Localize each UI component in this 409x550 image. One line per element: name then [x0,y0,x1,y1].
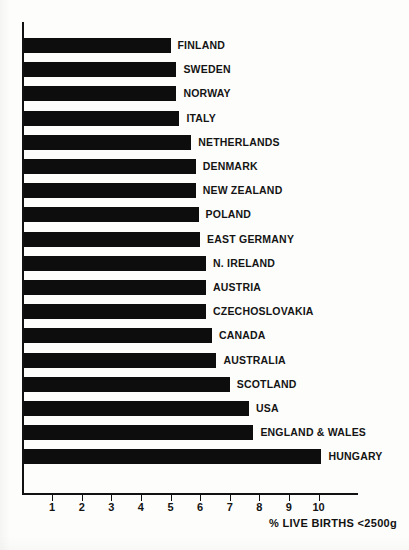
bar-label: CZECHOSLOVAKIA [206,304,314,319]
bar-rect [24,353,216,368]
bar-row: HUNGARY [24,449,383,464]
bar-row: AUSTRIA [24,280,261,295]
bar-rect [24,86,176,101]
x-tick-label: 1 [40,501,64,513]
bar-label: DENMARK [196,159,258,174]
bar-label: ENGLAND & WALES [253,425,366,440]
bar-label: N. IRELAND [206,256,275,271]
x-tick-label: 8 [247,501,271,513]
bar-row: N. IRELAND [24,256,275,271]
bar-rect [24,256,206,271]
bar-rect [24,449,321,464]
bar-rect [24,183,196,198]
bar-rect [24,111,179,126]
bar-rect [24,207,199,222]
x-tick-label: 9 [277,501,301,513]
bar-rect [24,377,230,392]
x-tick-label: 6 [188,501,212,513]
bar-chart: FINLANDSWEDENNORWAYITALYNETHERLANDSDENMA… [0,0,409,550]
bar-rect [24,401,249,416]
bar-rect [24,232,200,247]
bar-row: ENGLAND & WALES [24,425,366,440]
bar-label: EAST GERMANY [200,232,294,247]
bar-label: NORWAY [176,86,230,101]
bar-label: AUSTRALIA [216,353,285,368]
bar-rect [24,159,196,174]
bars-layer: FINLANDSWEDENNORWAYITALYNETHERLANDSDENMA… [0,0,409,495]
x-tick-label: 2 [70,501,94,513]
x-axis-title: % LIVE BIRTHS <2500g [269,517,397,529]
bar-label: NETHERLANDS [191,135,280,150]
bar-label: FINLAND [171,38,225,53]
bar-label: AUSTRIA [206,280,261,295]
bar-row: POLAND [24,207,251,222]
x-tick-label: 4 [129,501,153,513]
bar-rect [24,62,176,77]
bar-row: AUSTRALIA [24,353,286,368]
bar-label: ITALY [179,111,216,126]
bar-rect [24,135,191,150]
bar-row: NORWAY [24,86,231,101]
bar-row: SCOTLAND [24,377,297,392]
x-tick-label: 3 [99,501,123,513]
bar-row: FINLAND [24,38,225,53]
bar-label: POLAND [199,207,252,222]
bar-label: SWEDEN [176,62,230,77]
bar-row: CANADA [24,328,266,343]
bar-label: SCOTLAND [230,377,297,392]
bar-row: USA [24,401,279,416]
bar-row: SWEDEN [24,62,231,77]
bar-row: CZECHOSLOVAKIA [24,304,314,319]
bar-row: NETHERLANDS [24,135,280,150]
x-tick-label: 5 [159,501,183,513]
bar-row: DENMARK [24,159,258,174]
x-tick-label: 10 [307,501,331,513]
bar-rect [24,38,171,53]
bar-rect [24,328,212,343]
bar-label: CANADA [212,328,266,343]
bar-rect [24,280,206,295]
bar-row: NEW ZEALAND [24,183,282,198]
bar-rect [24,304,206,319]
bar-row: ITALY [24,111,216,126]
bar-rect [24,425,253,440]
bar-label: NEW ZEALAND [196,183,283,198]
bar-label: HUNGARY [321,449,382,464]
bar-label: USA [249,401,279,416]
bar-row: EAST GERMANY [24,232,294,247]
x-tick-label: 7 [218,501,242,513]
